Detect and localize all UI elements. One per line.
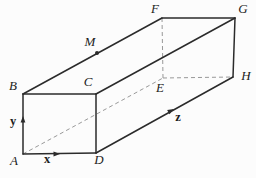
figure-canvas: xyzABCDEFGHM [0,0,256,178]
hidden-edge-EH [163,77,233,78]
vertex-label-F: F [150,1,160,16]
edge-CG [96,18,235,94]
point-label-M: M [84,34,97,49]
y-axis-label: y [10,114,17,128]
hidden-edge-EF [162,18,163,78]
y-axis-arrowhead [21,116,26,123]
x-axis-label: x [44,152,51,166]
edge-BF [23,18,162,94]
vertex-label-C: C [84,74,93,89]
vertex-label-B: B [9,78,17,93]
point-dot-M [95,51,99,55]
vertex-label-A: A [9,153,18,168]
geometry-diagram: xyzABCDEFGHM [0,0,256,178]
vertex-label-E: E [155,80,164,95]
vertex-label-D: D [93,152,104,167]
vertex-label-H: H [240,68,251,83]
x-axis-arrowhead [54,152,61,157]
vertex-label-G: G [238,1,248,16]
z-axis-label: z [175,110,181,124]
edge-DH [96,77,233,153]
edge-GH [233,18,235,77]
hidden-edge-AE [23,78,163,154]
